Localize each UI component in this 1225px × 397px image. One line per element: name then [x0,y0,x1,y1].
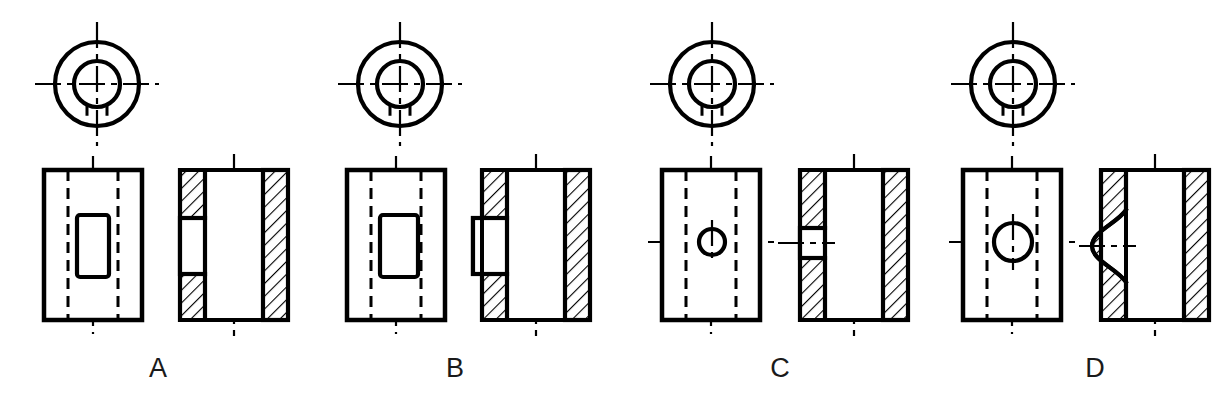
section-view-right-wall-hatch [565,170,590,320]
front-view-C [648,156,774,334]
front-view-A [44,156,142,334]
section-view-B [473,154,590,336]
option-label-D: D [1085,353,1105,383]
section-view-notch-pocket [180,218,205,274]
option-label-B: B [446,353,464,383]
section-view-right-wall-hatch [883,170,908,320]
section-view-notch-opening [473,218,507,274]
front-view-slot-outline [380,215,418,277]
front-view-slot-outline [77,215,109,277]
front-view-D [949,156,1075,334]
section-view-right-wall-hatch [263,170,288,320]
option-label-C: C [770,353,790,383]
front-view-B [347,156,445,334]
section-view-right-wall-hatch [1184,170,1209,320]
option-label-A: A [149,353,167,383]
drawing-sheet: ABCD [0,0,1225,397]
section-view-A [180,154,288,336]
technical-drawing-canvas: ABCD [0,0,1225,397]
